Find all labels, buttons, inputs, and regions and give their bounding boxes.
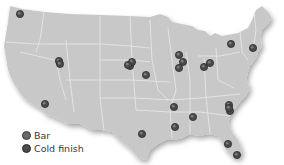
plant-marker-highlight — [251, 46, 254, 49]
plant-marker-highlight — [208, 61, 211, 64]
plant-marker-highlight — [140, 132, 143, 135]
plant-marker-highlight — [126, 63, 129, 66]
plant-marker-highlight — [202, 65, 205, 68]
plant-marker-highlight — [173, 125, 176, 128]
legend-label-cold-finish: Cold finish — [34, 142, 84, 155]
plant-marker-highlight — [144, 73, 147, 76]
plant-marker-highlight — [229, 42, 232, 45]
plant-marker-highlight — [181, 60, 184, 63]
plant-marker-highlight — [227, 106, 230, 109]
legend-item-bar: Bar — [22, 129, 84, 142]
cold-finish-marker-icon — [22, 144, 31, 153]
bar-marker-icon — [22, 131, 31, 140]
map-legend: Bar Cold finish — [22, 129, 84, 155]
plant-marker-highlight — [191, 115, 194, 118]
legend-label-bar: Bar — [34, 129, 50, 142]
plant-marker-highlight — [18, 12, 21, 15]
plant-marker-highlight — [226, 142, 229, 145]
plant-marker-highlight — [177, 66, 180, 69]
legend-item-cold-finish: Cold finish — [22, 142, 84, 155]
plant-marker-highlight — [43, 102, 46, 105]
plant-marker-highlight — [58, 62, 61, 65]
plant-marker-highlight — [177, 53, 180, 56]
plant-marker-highlight — [172, 105, 175, 108]
plant-marker-highlight — [235, 153, 238, 156]
